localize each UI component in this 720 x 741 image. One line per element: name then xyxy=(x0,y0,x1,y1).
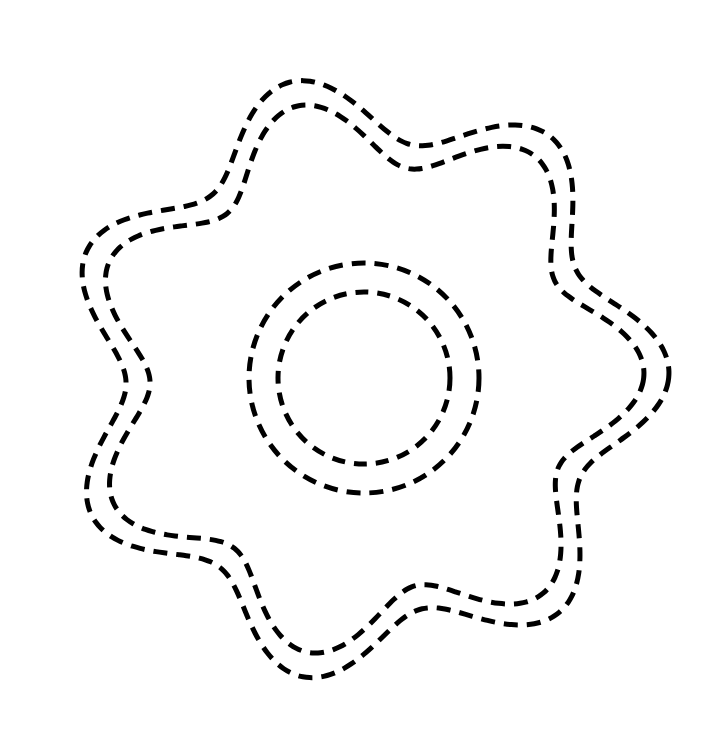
drawing-canvas xyxy=(0,0,720,741)
scalloped-ring-figure xyxy=(0,0,720,741)
